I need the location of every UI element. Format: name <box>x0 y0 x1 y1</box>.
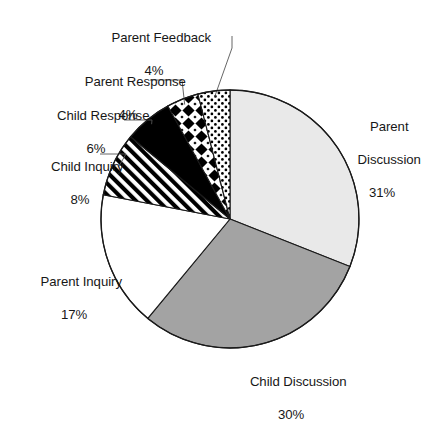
slice-label-parent-inquiry: Parent Inquiry 17% <box>4 258 144 356</box>
slice-label-child-inquiry: Child Inquiry 8% <box>12 143 148 241</box>
slice-label-child-discussion: Child Discussion 30% <box>222 358 360 423</box>
slice-label-line2: Discussion <box>358 152 421 167</box>
slice-label-text: Parent Inquiry <box>41 274 122 289</box>
slice-label-text: Child Response <box>57 108 149 123</box>
slice-label-percent: 31% <box>336 185 428 201</box>
slice-label-line1: Parent <box>370 119 409 134</box>
slice-label-text: Child Discussion <box>250 374 347 389</box>
slice-label-parent-discussion: Parent Discussion 31% <box>336 103 428 234</box>
slice-label-percent: 8% <box>12 192 148 208</box>
slice-label-text: Child Inquiry <box>51 159 124 174</box>
slice-label-percent: 30% <box>222 407 360 423</box>
slice-label-text: Parent Feedback <box>111 30 211 45</box>
slice-label-percent: 17% <box>4 307 144 323</box>
slice-label-text: Parent Response <box>85 74 186 89</box>
